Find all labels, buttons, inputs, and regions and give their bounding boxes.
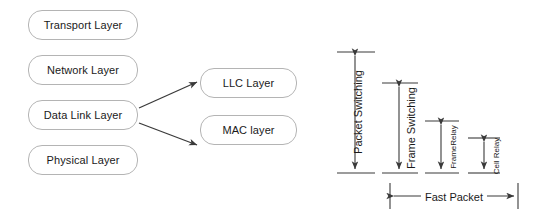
- connector-datalink-to-llc: [139, 82, 197, 108]
- osi-box-physical-layer[interactable]: Physical Layer: [28, 145, 138, 175]
- osi-box-label: Physical Layer: [47, 154, 120, 166]
- osi-box-label: Network Layer: [47, 64, 119, 76]
- measure-label-fast-packet: Fast Packet: [421, 191, 487, 203]
- measure-label-frame-switching: Frame Switching: [406, 86, 418, 170]
- sublayer-box-llc-layer[interactable]: LLC Layer: [200, 68, 297, 98]
- sublayer-box-mac-layer[interactable]: MAC layer: [200, 115, 297, 145]
- osi-box-label: Transport Layer: [44, 19, 123, 31]
- connector-datalink-to-mac: [139, 123, 197, 145]
- diagram-canvas: Transport Layer Network Layer Data Link …: [0, 0, 539, 220]
- measure-label-cell-relay: Cell Relay: [493, 125, 502, 187]
- sublayer-box-label: MAC layer: [222, 124, 274, 136]
- osi-box-transport-layer[interactable]: Transport Layer: [28, 10, 138, 40]
- osi-box-data-link-layer[interactable]: Data Link Layer: [28, 100, 138, 130]
- osi-box-label: Data Link Layer: [44, 109, 123, 121]
- osi-box-network-layer[interactable]: Network Layer: [28, 55, 138, 85]
- measure-label-frame-relay: FrameRelay: [450, 112, 459, 182]
- sublayer-box-label: LLC Layer: [223, 77, 275, 89]
- measure-label-packet-switching: Packet Switching: [353, 52, 365, 172]
